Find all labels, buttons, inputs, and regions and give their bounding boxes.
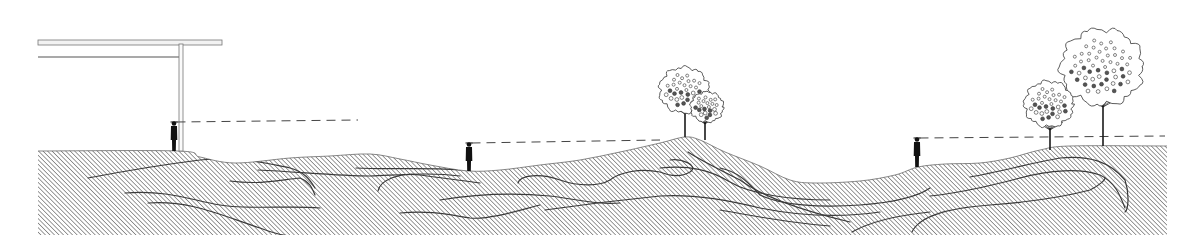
observer-2-sightline: [472, 140, 661, 143]
body: [914, 142, 921, 167]
canopy-column: [179, 44, 183, 151]
leaf-cluster: [708, 109, 712, 113]
ground-mass: [38, 137, 1167, 235]
sightlines: [177, 120, 1166, 143]
tree-4: [1058, 28, 1144, 146]
leaf-cluster: [1092, 84, 1096, 88]
leaf-cluster: [686, 98, 690, 102]
leaf-cluster: [1033, 103, 1037, 107]
leaf-cluster: [1070, 70, 1074, 74]
leaf-cluster: [1063, 104, 1067, 108]
observer-1-sightline: [177, 120, 359, 122]
observer-3-figure: [914, 137, 921, 167]
leaf-cluster: [1100, 82, 1104, 86]
leaf-cluster: [686, 93, 690, 97]
leaf-cluster: [1105, 71, 1109, 75]
hatched-terrain: [38, 137, 1167, 235]
observer-3-sightline: [920, 136, 1166, 138]
leaf-cluster: [1119, 82, 1123, 86]
leaf-cluster: [694, 106, 698, 110]
leaf-cluster: [1088, 70, 1092, 74]
leaf-cluster: [1083, 83, 1087, 87]
crown-outline: [1058, 28, 1144, 106]
trees: [658, 28, 1143, 150]
leaf-cluster: [1120, 67, 1124, 71]
observer-1-figure: [171, 121, 178, 151]
leaf-cluster: [1082, 66, 1086, 70]
leaf-cluster: [1096, 68, 1100, 72]
stratum-line: [38, 236, 70, 237]
leaf-cluster: [1112, 89, 1116, 93]
canopy-roof: [38, 40, 222, 45]
leaf-cluster: [1051, 107, 1055, 111]
leaf-cluster: [1051, 112, 1055, 116]
leaf-cluster: [697, 108, 701, 112]
leaf-cluster: [682, 102, 686, 106]
leaf-cluster: [1064, 109, 1068, 113]
leaf-cluster: [679, 91, 683, 95]
leaf-cluster: [705, 116, 709, 120]
leaf-cluster: [703, 107, 707, 111]
leaf-cluster: [1038, 106, 1042, 110]
body: [171, 126, 178, 151]
observer-2-figure: [466, 142, 473, 171]
leaf-cluster: [708, 113, 712, 117]
canopy-structure: [38, 40, 222, 151]
leaf-cluster: [1121, 74, 1125, 78]
leaf-cluster: [1105, 78, 1109, 82]
leaf-cluster: [698, 90, 702, 94]
leaf-cluster: [1075, 78, 1079, 82]
leaf-cluster: [1041, 117, 1045, 121]
section-drawing: Site section with hatched earth mounds, …: [0, 0, 1200, 245]
leaf-cluster: [676, 103, 680, 107]
tree-3: [1023, 80, 1074, 150]
leaf-cluster: [1044, 105, 1048, 109]
tree-2: [689, 91, 724, 140]
body: [466, 147, 473, 171]
leaf-cluster: [668, 89, 672, 93]
leaf-cluster: [1047, 116, 1051, 120]
leaf-cluster: [673, 92, 677, 96]
landscape-section-svg: [0, 0, 1200, 245]
